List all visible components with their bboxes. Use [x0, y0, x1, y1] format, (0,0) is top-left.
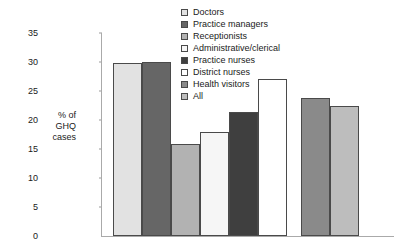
y-axis-title-line-3: cases — [14, 132, 76, 143]
y-axis-tick-label: 25 — [0, 86, 38, 96]
legend-item: Administrative/clerical — [181, 42, 280, 54]
bar-practice-nurses — [229, 112, 258, 236]
y-axis-tick-label: 20 — [0, 115, 38, 125]
legend-swatch-icon — [181, 81, 188, 88]
legend-swatch-icon — [181, 21, 188, 28]
legend-item: Doctors — [181, 6, 280, 18]
bar-doctors — [113, 63, 142, 236]
legend-swatch-icon — [181, 57, 188, 64]
y-axis-tick-label: 5 — [0, 202, 38, 212]
legend-item-label: Doctors — [193, 6, 224, 18]
bar-all — [330, 106, 359, 237]
legend-swatch-icon — [181, 93, 188, 100]
x-axis-line — [101, 236, 394, 237]
y-axis-tick-label: 10 — [0, 173, 38, 183]
bar-district-nurses — [258, 79, 287, 236]
legend-item-label: District nurses — [193, 66, 250, 78]
legend-swatch-icon — [181, 45, 188, 52]
legend-item-label: Administrative/clerical — [193, 42, 280, 54]
legend-item: Receptionists — [181, 30, 280, 42]
y-axis-tick-label: 0 — [0, 231, 38, 241]
y-axis-tick-label: 15 — [0, 144, 38, 154]
legend-item-label: Practice nurses — [193, 54, 255, 66]
chart-legend: DoctorsPractice managersReceptionistsAdm… — [181, 6, 280, 102]
bar-receptionists — [171, 144, 200, 236]
legend-item-label: All — [193, 90, 203, 102]
legend-item-label: Practice managers — [193, 18, 268, 30]
bar-chart: % of GHQ cases 05101520253035 DoctorsPra… — [0, 0, 399, 250]
legend-item-label: Receptionists — [193, 30, 247, 42]
legend-item: Practice managers — [181, 18, 280, 30]
bar-health-visitors — [301, 98, 330, 236]
bar-practice-managers — [142, 62, 171, 236]
y-axis-tick-label: 30 — [0, 57, 38, 67]
legend-swatch-icon — [181, 69, 188, 76]
legend-item: Health visitors — [181, 78, 280, 90]
legend-item: All — [181, 90, 280, 102]
y-axis-tick-label: 35 — [0, 28, 38, 38]
legend-swatch-icon — [181, 9, 188, 16]
legend-item: District nurses — [181, 66, 280, 78]
legend-item: Practice nurses — [181, 54, 280, 66]
bar-administrative-clerical — [200, 132, 229, 236]
legend-swatch-icon — [181, 33, 188, 40]
legend-item-label: Health visitors — [193, 78, 250, 90]
